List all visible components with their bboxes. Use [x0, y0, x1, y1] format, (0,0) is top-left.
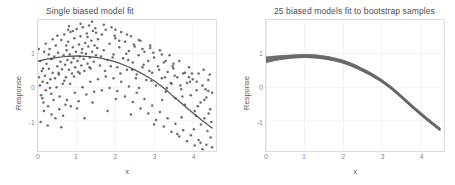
scatter-plot-svg: [38, 20, 216, 151]
scatter-point: [173, 74, 176, 77]
scatter-point: [139, 107, 142, 110]
scatter-point: [56, 34, 59, 37]
scatter-point: [118, 46, 121, 49]
figure-root: Single biased model fit Response 1 0 -1: [0, 0, 455, 185]
bootstrap-curve: [266, 57, 440, 130]
scatter-point: [172, 67, 175, 70]
scatter-point: [83, 70, 86, 73]
scatter-point: [97, 38, 100, 41]
scatter-point: [132, 101, 135, 104]
scatter-point: [46, 124, 49, 127]
scatter-point: [207, 79, 210, 82]
x-tick-label: 1: [302, 153, 306, 160]
scatter-point: [86, 62, 89, 65]
scatter-point: [169, 82, 172, 85]
scatter-point: [135, 73, 138, 76]
scatter-point: [99, 64, 102, 67]
scatter-point: [116, 66, 119, 69]
scatter-point: [44, 89, 47, 92]
panel-title-left: Single biased model fit: [46, 6, 134, 16]
x-tick-label: 0: [264, 153, 268, 160]
scatter-point: [200, 123, 203, 126]
scatter-point: [181, 95, 184, 98]
scatter-point: [79, 35, 82, 38]
scatter-point: [64, 104, 67, 107]
scatter-point: [147, 60, 150, 63]
scatter-point: [186, 82, 189, 85]
scatter-point: [203, 99, 206, 102]
scatter-point: [100, 55, 103, 58]
scatter-point: [127, 59, 130, 62]
scatter-point: [161, 99, 164, 102]
scatter-point: [205, 96, 208, 99]
scatter-point: [145, 79, 148, 82]
scatter-point: [163, 125, 166, 128]
scatter-point: [43, 110, 46, 113]
scatter-point: [66, 59, 69, 62]
scatter-point: [192, 78, 195, 81]
scatter-point: [44, 74, 47, 77]
scatter-point: [50, 113, 53, 116]
scatter-point: [76, 60, 79, 63]
scatter-point: [179, 84, 182, 87]
scatter-point: [47, 105, 50, 108]
scatter-point: [188, 76, 191, 79]
scatter-point: [164, 60, 167, 63]
bootstrap-plot-svg: [266, 20, 444, 151]
scatter-point: [159, 111, 162, 114]
scatter-point: [43, 50, 46, 53]
scatter-point: [93, 90, 96, 93]
x-tick-labels-left: 0 1 2 3 4: [37, 153, 217, 165]
scatter-point: [95, 31, 98, 33]
scatter-point: [79, 22, 82, 25]
scatter-point: [51, 38, 54, 41]
scatter-point: [59, 61, 62, 64]
scatter-point: [58, 95, 61, 98]
x-tick-label: 4: [420, 153, 424, 160]
gridlines-left: [38, 20, 216, 151]
scatter-point: [65, 76, 68, 79]
scatter-point: [151, 72, 154, 75]
scatter-point: [65, 44, 68, 47]
y-tick-labels-left: 1 0 -1: [22, 19, 35, 152]
x-axis-label-right: x: [265, 167, 445, 176]
scatter-point: [126, 33, 129, 36]
scatter-point: [69, 82, 72, 85]
scatter-point: [86, 36, 89, 39]
scatter-point: [132, 61, 135, 64]
scatter-point: [197, 105, 200, 108]
scatter-point: [48, 48, 51, 51]
scatter-point: [72, 30, 75, 32]
scatter-point: [164, 76, 167, 79]
scatter-point: [197, 72, 200, 75]
scatter-point: [38, 48, 40, 51]
fitted-curve: [38, 56, 212, 128]
scatter-point: [69, 31, 72, 34]
scatter-point: [89, 81, 92, 84]
scatter-point: [155, 84, 158, 87]
bootstrap-curve: [266, 57, 440, 130]
scatter-point: [60, 39, 63, 42]
scatter-point: [61, 68, 64, 71]
scatter-point: [95, 54, 98, 57]
scatter-point: [184, 72, 187, 75]
scatter-point: [209, 108, 212, 111]
scatter-point: [52, 99, 55, 102]
scatter-point: [70, 61, 73, 64]
scatter-point: [199, 101, 202, 104]
scatter-point: [178, 60, 181, 63]
scatter-point: [209, 73, 212, 76]
scatter-point: [88, 24, 91, 27]
scatter-point: [204, 88, 207, 91]
scatter-point: [94, 27, 97, 30]
scatter-point: [67, 41, 70, 44]
scatter-point: [54, 117, 57, 120]
scatter-point: [71, 72, 74, 75]
scatter-point: [203, 117, 206, 120]
scatter-point: [195, 89, 198, 92]
scatter-point: [81, 86, 84, 89]
scatter-point: [176, 133, 179, 136]
scatter-point: [133, 43, 136, 46]
scatter-point: [55, 86, 58, 89]
scatter-point: [104, 29, 107, 32]
